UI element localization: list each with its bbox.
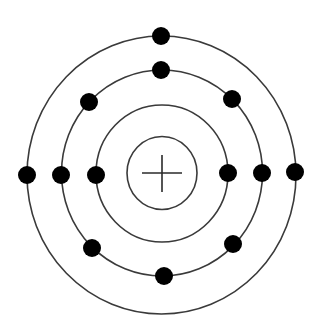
- atom-diagram: [0, 0, 324, 335]
- electron-shell-3: [152, 27, 170, 45]
- electron-shell-3: [18, 166, 36, 184]
- plus-icon: [142, 155, 182, 192]
- nucleus: [127, 137, 197, 210]
- electron-shell-2: [155, 267, 173, 285]
- electron-shell-1: [87, 166, 105, 184]
- electron-shell-3: [286, 163, 304, 181]
- electron-shell-2: [224, 235, 242, 253]
- electron-shell-2: [253, 164, 271, 182]
- electron-shell-2: [223, 90, 241, 108]
- electron-shell-2: [83, 239, 101, 257]
- electron-shell-2: [152, 61, 170, 79]
- electron-shell-2: [80, 93, 98, 111]
- electron-shell-1: [219, 164, 237, 182]
- electron-shell-2: [52, 166, 70, 184]
